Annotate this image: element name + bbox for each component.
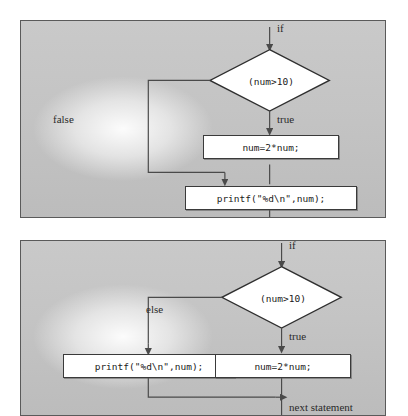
edge-label-true: true xyxy=(277,113,294,125)
process-node-assign: num=2*num; xyxy=(215,354,351,378)
edge-label-next-statement: next statement xyxy=(289,401,353,413)
process-node-printf: printf("%d\n",num); xyxy=(185,186,357,210)
process-node-assign: num=2*num; xyxy=(203,135,339,159)
process-node-printf: printf("%d\n",num); xyxy=(63,354,235,378)
panel-if-else-statement: (num>10) else true if printf("%d\n",num)… xyxy=(20,240,386,416)
edge-label-true: true xyxy=(289,330,306,342)
edge-label-else: else xyxy=(146,303,163,315)
panel-if-statement: (num>10) false true if num=2*num; printf… xyxy=(20,20,386,218)
decision-condition-text: (num>10) xyxy=(211,71,331,91)
decision-condition-text: (num>10) xyxy=(223,288,343,308)
edge-label-if: if xyxy=(289,240,296,251)
edge-label-if: if xyxy=(277,22,284,34)
figure-canvas: (num>10) false true if num=2*num; printf… xyxy=(0,0,408,416)
edge-label-false: false xyxy=(53,113,74,125)
edge-merge xyxy=(148,377,275,397)
if-else-flowchart-connectors xyxy=(21,241,385,415)
